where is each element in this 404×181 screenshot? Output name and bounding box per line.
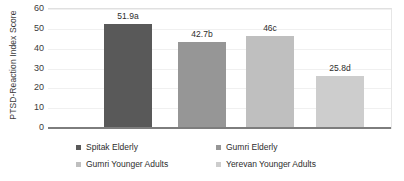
legend-item-label: Gumri Younger Adults [86, 159, 168, 169]
legend-item-label: Yerevan Younger Adults [226, 159, 316, 169]
y-tick-label: 50 [20, 23, 44, 33]
bar-group: 51.9a [104, 6, 152, 127]
legend-swatch-icon [76, 145, 81, 150]
legend-item-label: Gumri Elderly [226, 142, 277, 152]
y-axis-tick-labels: 6050403020100 [20, 8, 44, 129]
bar[interactable] [316, 76, 364, 127]
plot-area: 51.9a42.7b46c25.8d [48, 8, 392, 129]
bar-chart: PTSD-Reaction Index Score 6050403020100 … [0, 0, 404, 181]
bar-group: 46c [246, 6, 294, 127]
bar[interactable] [178, 42, 226, 127]
legend-item[interactable]: Gumri Elderly [216, 142, 277, 152]
bar-group: 25.8d [316, 6, 364, 127]
legend-swatch-icon [76, 162, 81, 167]
bar-series: 51.9a42.7b46c25.8d [48, 9, 391, 127]
bar-value-label: 25.8d [329, 63, 350, 73]
bar-group: 42.7b [178, 6, 226, 127]
y-tick-label: 0 [20, 122, 44, 132]
y-tick-label: 40 [20, 43, 44, 53]
legend-item[interactable]: Yerevan Younger Adults [216, 159, 316, 169]
legend-item[interactable]: Gumri Younger Adults [76, 159, 168, 169]
bar-value-label: 42.7b [191, 29, 212, 39]
chart-legend: Spitak ElderlyGumri ElderlyGumri Younger… [48, 140, 392, 176]
bar-value-label: 46c [263, 23, 277, 33]
bar-value-label: 51.9a [117, 11, 138, 21]
bar[interactable] [246, 36, 294, 127]
y-tick-label: 10 [20, 102, 44, 112]
legend-swatch-icon [216, 162, 221, 167]
y-axis-title: PTSD-Reaction Index Score [8, 0, 18, 130]
legend-item-label: Spitak Elderly [86, 142, 138, 152]
legend-swatch-icon [216, 145, 221, 150]
y-tick-label: 20 [20, 82, 44, 92]
x-axis-baseline [48, 127, 391, 129]
y-tick-label: 60 [20, 3, 44, 13]
bar[interactable] [104, 24, 152, 127]
y-tick-label: 30 [20, 63, 44, 73]
legend-item[interactable]: Spitak Elderly [76, 142, 138, 152]
